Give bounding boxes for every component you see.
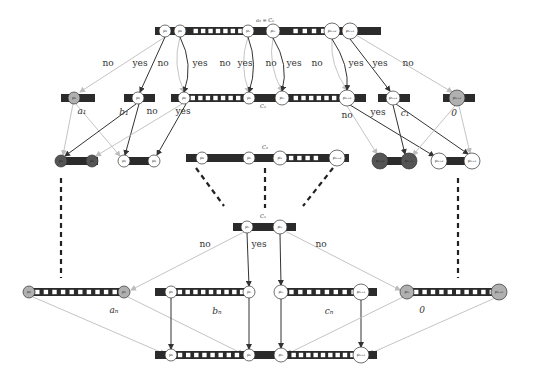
node-label: pₘ [279,95,285,100]
node-label: pₙ [246,28,251,33]
slot-square [44,290,48,294]
node-label: p₁ [122,158,127,163]
node-label: p₁ [169,289,174,294]
node-circle: p₁ [165,349,177,361]
value-label: aₙ [109,305,118,315]
slot-square [456,290,460,294]
value-label: c₁ [401,108,410,118]
node-circle: pₘ [274,285,288,299]
node-circle: pₘ₊₁ [386,91,400,105]
slot-square [473,290,477,294]
node-label: pₘ₊₂ [435,158,444,163]
node-circle: p₁ [68,92,80,104]
edge-label-no: no [402,58,413,68]
slot-square [178,290,182,294]
node-circle: p₂ [86,155,98,167]
slot-square [95,290,99,294]
node-circle: pₙ [242,25,254,37]
node-label: pₘ₊₁ [389,95,398,100]
node-circle: pₘ₊₁ [449,90,465,106]
slot-square [201,29,205,33]
slot-square [185,290,189,294]
slot-square [208,29,212,33]
slot-square [303,29,307,33]
slot-square [223,29,227,33]
slot-square [221,96,225,100]
node-circle: pₘ₊₂ [372,153,388,169]
node-circle: pₙ [243,349,255,361]
nodes: p₁p₂pₙpₘpₘ₊₂pₘ₊₁p₁p₁p₂pₙpₘpₘ₊₂pₘ₊₁pₘ₊₁p₁… [23,23,507,363]
slot-square [231,29,235,33]
edge-label-no: no [265,58,276,68]
slot-square [307,290,311,294]
slot-square [198,96,202,100]
bar-b4 [405,288,503,296]
node-label: p₂ [152,158,157,163]
slot-square [213,96,217,100]
edge-label-yes: yes [236,58,252,68]
node-label: p₁ [59,158,64,163]
edge-label-no: no [315,239,326,249]
labels: noyesnoyesnoyesnoyesnoyesyesnonoyesnoyes… [78,17,458,316]
edge-label-no: no [219,58,230,68]
slot-square [448,290,452,294]
slot-square [236,96,240,100]
bar-c2 [186,154,349,162]
slot-square [335,353,339,357]
node-label: pₘ [404,289,410,294]
node-label: p₁ [169,352,174,357]
edge-arrow [413,106,455,155]
dashed-connector [196,168,224,206]
value-label: 0 [419,305,425,315]
slot-square [228,96,232,100]
node-label: pₘ₊₂ [343,95,352,100]
node-circle: p₁ [165,286,177,298]
node-circle: pₙ [243,92,255,104]
slot-square [291,353,295,357]
node-label: pₘ [278,352,284,357]
slot-square [324,96,328,100]
node-label: pₘ [270,28,276,33]
node-circle: pₘ [275,91,289,105]
slot-square [312,29,316,33]
bar-b1 [25,288,128,296]
slot-square [113,290,117,294]
bar-title: Cₙ [260,213,266,219]
node-circle: pₙ [243,152,255,164]
slot-square [422,290,426,294]
edge-label-no: no [102,58,113,68]
node-label: pₘ [277,224,283,229]
node-label: p₂ [182,95,187,100]
slot-square [70,290,74,294]
edge-label-yes: yes [285,58,301,68]
node-label: pₘ₊₁ [495,289,504,294]
value-label: 0 [451,108,457,118]
node-label: p₂ [90,158,95,163]
node-circle: pₘ [273,220,287,234]
slot-square [217,290,221,294]
node-circle: pₘ₊₁ [491,284,507,300]
slot-square [299,353,303,357]
slot-square [194,29,198,33]
node-circle: pₘ₊₂ [339,90,355,106]
value-label: bₙ [212,306,222,316]
edge-label-yes: yes [347,58,363,68]
node-circle: pₘ₊₁ [353,284,369,300]
slot-square [328,353,332,357]
node-circle: p₂ [178,92,190,104]
edge-label-yes: yes [191,58,207,68]
value-label: cₙ [325,306,334,316]
node-label: pₘ₊₂ [376,158,385,163]
slot-square [209,290,213,294]
edge-arrow [131,232,244,290]
node-label: pₘ₊₂ [328,28,337,33]
edge-label-yes: yes [369,107,385,117]
edge-label-yes: yes [371,58,387,68]
bar-title: C₁ [260,103,266,109]
slot-square [87,290,91,294]
slot-square [431,290,435,294]
slot-square [309,96,313,100]
node-label: p₂ [178,28,183,33]
edge-label-no: no [146,106,157,116]
slot-square [334,290,338,294]
